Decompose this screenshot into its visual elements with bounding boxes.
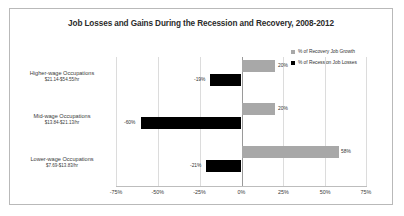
x-tick-0: 0% — [238, 189, 246, 195]
bar-recovery-higher-wage — [242, 60, 275, 72]
x-tick-75: 75% — [361, 189, 372, 195]
x-tick--75: -75% — [110, 189, 123, 195]
x-tick--50: -50% — [152, 189, 165, 195]
bar-value-recovery-mid-wage: 20% — [278, 105, 288, 113]
legend-swatch-recovery-icon — [291, 50, 295, 54]
chart-title: Job Losses and Gains During the Recessio… — [10, 19, 392, 28]
category-name-mid-wage: Mid-wage Occupations — [14, 113, 110, 120]
category-range-lower-wage: $7.69-$13.83/hr — [14, 163, 110, 169]
plot-area: 20% -19% 20% -60% 58% -21% — [116, 57, 367, 186]
x-tick-50: 50% — [320, 189, 331, 195]
category-name-higher-wage: Higher-wage Occupations — [14, 70, 110, 77]
bar-recession-higher-wage — [210, 74, 242, 86]
bar-value-recession-higher-wage: -19% — [194, 76, 205, 84]
bar-recession-lower-wage — [206, 160, 241, 172]
bar-row-lower-wage: 58% -21% — [116, 143, 367, 186]
category-range-higher-wage: $21.14-$54.55/hr — [14, 77, 110, 83]
bar-recovery-lower-wage — [242, 146, 339, 158]
bar-recession-mid-wage — [141, 117, 241, 129]
category-range-mid-wage: $13.84-$21.13/hr — [14, 120, 110, 126]
category-label-mid-wage: Mid-wage Occupations $13.84-$21.13/hr — [14, 113, 110, 126]
bar-value-recovery-higher-wage: 20% — [278, 62, 288, 70]
bar-value-recession-mid-wage: -60% — [124, 119, 135, 127]
bar-value-recovery-lower-wage: 58% — [341, 148, 351, 156]
bar-row-mid-wage: 20% -60% — [116, 100, 367, 143]
x-axis-line — [116, 186, 367, 187]
category-label-higher-wage: Higher-wage Occupations $21.14-$54.55/hr — [14, 70, 110, 83]
category-name-lower-wage: Lower-wage Occupations — [14, 156, 110, 163]
x-tick-25: 25% — [278, 189, 289, 195]
legend-item-recovery: % of Recovery Job Growth — [291, 47, 391, 56]
category-label-lower-wage: Lower-wage Occupations $7.69-$13.83/hr — [14, 156, 110, 169]
legend-label-recovery: % of Recovery Job Growth — [298, 49, 355, 54]
chart-figure: Job Losses and Gains During the Recessio… — [9, 8, 393, 205]
bar-recovery-mid-wage — [242, 103, 275, 115]
bar-value-recession-lower-wage: -21% — [190, 162, 201, 170]
x-tick--25: -25% — [193, 189, 206, 195]
bar-row-higher-wage: 20% -19% — [116, 57, 367, 100]
